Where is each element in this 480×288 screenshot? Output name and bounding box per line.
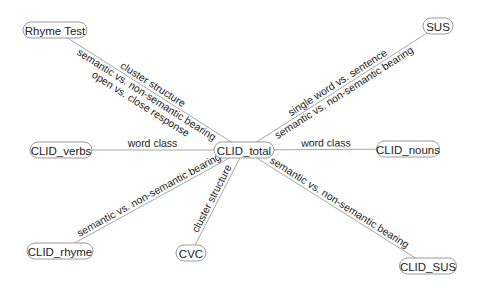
node-label: CLID_SUS bbox=[400, 261, 457, 273]
node-clid_total[interactable]: CLID_total bbox=[214, 142, 274, 158]
node-clid_sus[interactable]: CLID_SUS bbox=[400, 258, 457, 274]
node-rhyme_test[interactable]: Rhyme Test bbox=[23, 22, 87, 38]
node-sus[interactable]: SUS bbox=[423, 18, 453, 34]
node-clid_nouns[interactable]: CLID_nouns bbox=[376, 141, 440, 157]
node-label: SUS bbox=[426, 21, 450, 33]
edge-label: word class bbox=[300, 136, 351, 148]
node-clid_rhyme[interactable]: CLID_rhyme bbox=[27, 243, 93, 259]
edge-clid_total-clid_sus bbox=[244, 150, 428, 266]
edge-label: semantic vs. non-semantic bearing bbox=[75, 46, 219, 143]
node-label: CVC bbox=[179, 248, 203, 260]
edge-label: semantic vs. non-semantic bearing bbox=[268, 154, 412, 251]
node-label: CLID_total bbox=[217, 145, 271, 157]
node-label: Rhyme Test bbox=[25, 25, 86, 37]
network-diagram: cluster structuresemantic vs. non-semant… bbox=[0, 0, 480, 288]
node-label: CLID_rhyme bbox=[28, 246, 93, 258]
node-label: CLID_nouns bbox=[376, 144, 440, 156]
node-cvc[interactable]: CVC bbox=[176, 245, 206, 261]
node-clid_verbs[interactable]: CLID_verbs bbox=[30, 142, 92, 158]
edge-label: semantic vs. non-semantic bearing bbox=[272, 43, 415, 141]
node-label: CLID_verbs bbox=[31, 145, 92, 157]
edge-label: single word vs. sentence bbox=[286, 46, 389, 118]
edge-label: word class bbox=[127, 137, 178, 149]
